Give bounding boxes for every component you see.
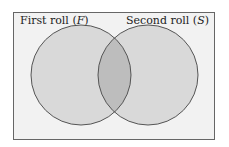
venn-diagram: First roll (F) Second roll (S) [0,0,229,147]
set-s-label: Second roll (S) [126,14,209,27]
set-f-label: First roll (F) [20,14,89,27]
